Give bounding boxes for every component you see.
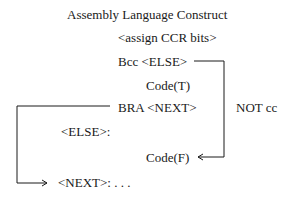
connector-arrows [0, 0, 286, 197]
bra-next-arrow [17, 106, 110, 186]
branch-not-cc-arrow [194, 61, 224, 160]
